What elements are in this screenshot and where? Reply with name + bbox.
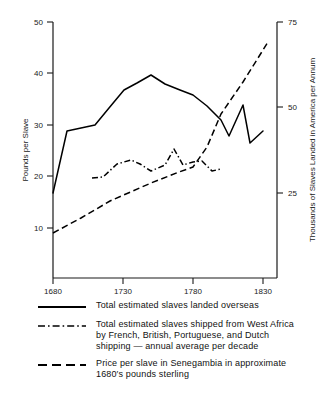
left-tick-label-40: 40 (34, 69, 43, 78)
x-tick-label-1780: 1780 (184, 287, 202, 296)
x-tick-label-1680: 1680 (44, 287, 62, 296)
right-tick-label-75: 75 (288, 18, 297, 27)
series-line-solid (53, 75, 263, 193)
left-tick-label-20: 20 (34, 172, 43, 181)
left-axis-title: Pounds per Slave (21, 118, 30, 182)
legend-swatch-dashdot (36, 319, 88, 332)
chart-figure: 50 40 30 20 10 75 50 25 1680 1730 1780 1… (0, 0, 333, 394)
x-tick-label-1730: 1730 (114, 287, 132, 296)
legend-item-1: Total estimated slaves shipped from West… (0, 319, 333, 352)
series-line-dashed (53, 42, 268, 233)
legend-item-0: Total estimated slaves landed overseas (0, 300, 333, 313)
series-line-dashdot (92, 149, 221, 178)
chart-legend: Total estimated slaves landed overseas T… (0, 300, 333, 386)
right-tick-label-50: 50 (288, 103, 297, 112)
legend-label-0: Total estimated slaves landed overseas (96, 300, 259, 311)
legend-label-1: Total estimated slaves shipped from West… (96, 319, 294, 352)
legend-swatch-dashed (36, 358, 88, 371)
left-tick-label-50: 50 (34, 18, 43, 27)
chart-plot-area: 50 40 30 20 10 75 50 25 1680 1730 1780 1… (0, 0, 333, 300)
left-tick-label-30: 30 (34, 121, 43, 130)
legend-label-2: Price per slave in Senegambia in approxi… (96, 358, 286, 380)
legend-swatch-solid (36, 300, 88, 313)
right-axis-title: Thousands of Slaves Landed in America pe… (308, 58, 317, 242)
x-tick-label-1830: 1830 (254, 287, 272, 296)
legend-item-2: Price per slave in Senegambia in approxi… (0, 358, 333, 380)
right-tick-label-25: 25 (288, 189, 297, 198)
left-tick-label-10: 10 (34, 224, 43, 233)
